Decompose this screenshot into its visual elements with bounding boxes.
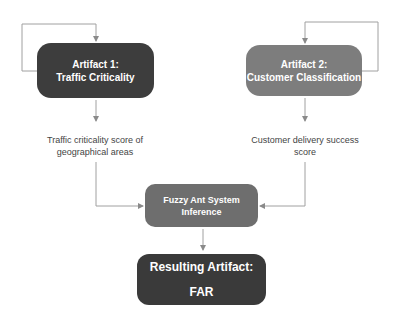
traffic-score-line1: Traffic criticality score of — [47, 135, 143, 145]
artifact1-subtitle: Traffic Criticality — [56, 71, 134, 84]
traffic-score-line2: geographical areas — [57, 147, 134, 157]
customer-score-line1: Customer delivery success — [251, 135, 359, 145]
result-name: FAR — [190, 285, 214, 300]
artifact2-customer-classification-node: Artifact 2: Customer Classification — [246, 45, 362, 96]
customer-score-label: Customer delivery success score — [240, 134, 370, 158]
traffic-score-label: Traffic criticality score of geographica… — [36, 134, 154, 158]
inference-line1: Fuzzy Ant System — [163, 194, 240, 206]
inference-line2: Inference — [181, 206, 221, 218]
customer-score-line2: score — [294, 147, 316, 157]
artifact2-subtitle: Customer Classification — [247, 71, 361, 84]
artifact1-traffic-criticality-node: Artifact 1: Traffic Criticality — [37, 43, 154, 98]
result-title: Resulting Artifact: — [150, 260, 254, 275]
resulting-artifact-far-node: Resulting Artifact: FAR — [137, 254, 266, 305]
fuzzy-ant-system-inference-node: Fuzzy Ant System Inference — [145, 184, 258, 227]
artifact2-title: Artifact 2: — [281, 58, 328, 71]
artifact1-title: Artifact 1: — [72, 58, 119, 71]
